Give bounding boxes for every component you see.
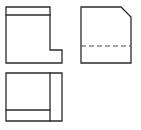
drawing-canvas (0, 0, 141, 130)
drawing-sheet (0, 0, 141, 130)
side-view (81, 7, 131, 63)
top-view (6, 73, 62, 121)
side-view-outline (81, 7, 131, 63)
front-view (6, 7, 62, 63)
top-view-outline (6, 73, 62, 121)
